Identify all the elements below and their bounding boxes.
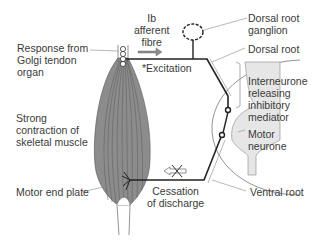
label-dorsal-root-ganglion: Dorsal root ganglion bbox=[248, 12, 299, 36]
golgi-tendon-organ bbox=[120, 46, 125, 66]
label-strong-contraction: Strong contraction of skeletal muscle bbox=[16, 112, 88, 148]
interneurone bbox=[226, 108, 231, 113]
reflex-diagram: Response from Golgi tendon organ Ib affe… bbox=[0, 0, 326, 245]
label-ventral-root: Ventral root bbox=[250, 186, 304, 198]
excitation-arrow bbox=[138, 48, 162, 56]
label-motor-end-plate: Motor end plate bbox=[16, 186, 89, 198]
label-ib-afferent-fibre: Ib afferent fibre bbox=[134, 12, 169, 48]
label-motor-neurone: Motor neurone bbox=[248, 128, 287, 152]
dorsal-root-ganglion bbox=[183, 24, 203, 40]
lower-tendon bbox=[117, 205, 130, 235]
label-cessation: Cessation of discharge bbox=[147, 185, 204, 209]
label-dorsal-root: Dorsal root bbox=[248, 43, 299, 55]
interneurone-bracket bbox=[236, 62, 240, 108]
label-interneurone: Interneurone releasing inhibitory mediat… bbox=[248, 75, 308, 123]
label-response-golgi: Response from Golgi tendon organ bbox=[17, 42, 88, 78]
label-excitation: *Excitation bbox=[142, 62, 192, 74]
